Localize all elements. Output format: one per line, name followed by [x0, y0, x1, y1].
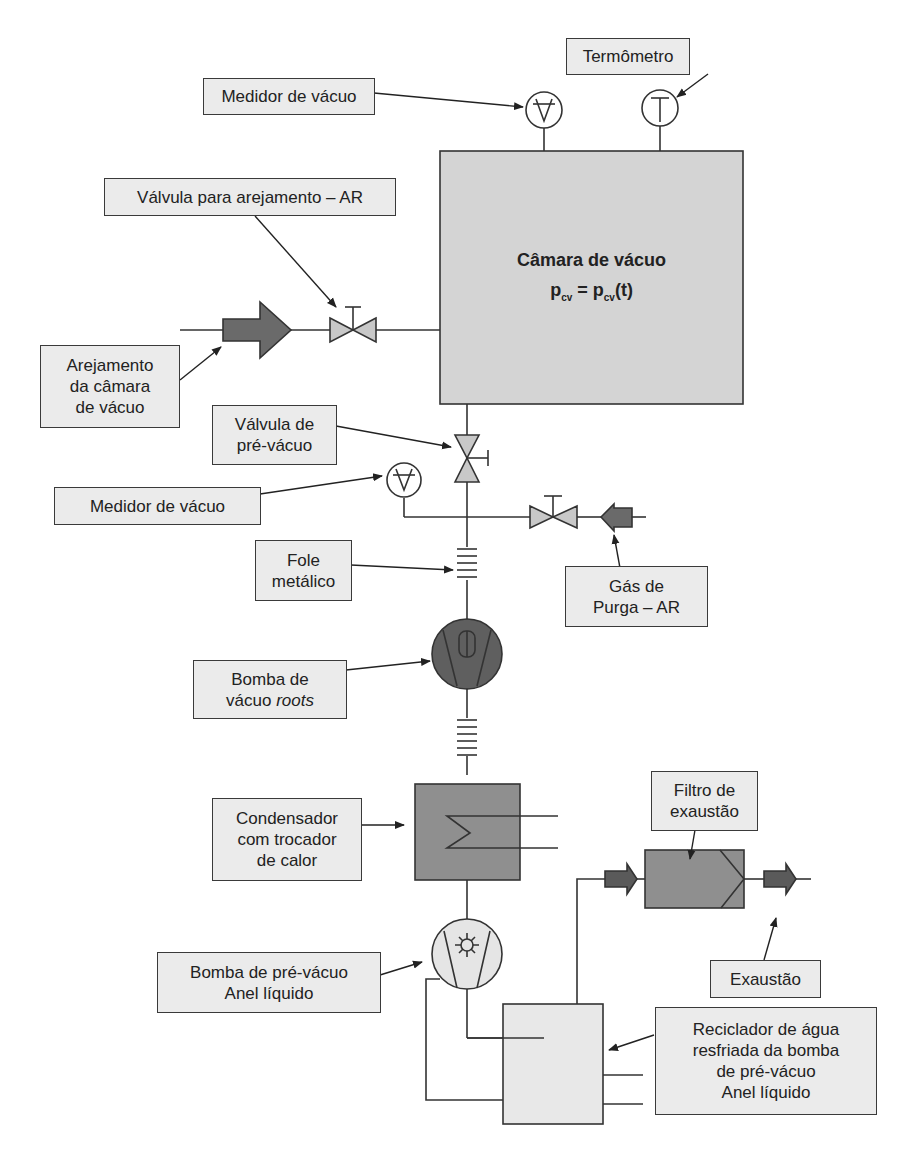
- vent-valve-icon: [330, 307, 376, 342]
- pre-vacuum-valve-icon: [455, 435, 488, 482]
- label-thermometer: Termômetro: [566, 38, 690, 75]
- vacuum-gauge-top-icon: [526, 92, 562, 128]
- chamber-title: Câmara de vácuo: [440, 245, 743, 275]
- exhaust-arrow-out-icon: [764, 864, 796, 894]
- label-vacuum-gauge-mid: Medidor de vácuo: [54, 487, 261, 525]
- chamber-title-block: Câmara de vácuo pcv = pcv(t): [440, 245, 743, 313]
- label-vent-valve: Válvula para arejamento – AR: [104, 178, 396, 216]
- label-liquid-ring-pump: Bomba de pré-vácuo Anel líquido: [157, 952, 381, 1013]
- label-vacuum-gauge-top: Medidor de vácuo: [203, 78, 375, 115]
- label-water-recycler: Reciclador de água resfriada da bomba de…: [655, 1007, 877, 1115]
- purge-inlet-arrow-icon: [601, 504, 646, 531]
- exhaust-arrow-in-icon: [605, 864, 637, 894]
- label-metal-bellows: Fole metálico: [255, 540, 352, 601]
- purge-valve-icon: [530, 496, 601, 528]
- vent-inlet-arrow-icon: [223, 302, 291, 358]
- metal-bellows-lower-icon: [457, 718, 477, 756]
- thermometer-icon: [642, 90, 678, 126]
- liquid-ring-pump-icon: [432, 919, 502, 989]
- roots-line-2: vácuo roots: [226, 690, 314, 711]
- condenser-icon: [415, 784, 558, 880]
- label-roots-pump: Bomba de vácuo roots: [193, 660, 347, 719]
- label-condenser: Condensador com trocador de calor: [212, 798, 362, 881]
- roots-pump-icon: [432, 619, 502, 689]
- water-recycler: [503, 1004, 603, 1124]
- metal-bellows-upper-icon: [457, 547, 477, 580]
- vacuum-gauge-mid-icon: [387, 463, 421, 497]
- label-purge-gas: Gás de Purga – AR: [565, 566, 708, 627]
- label-pre-vacuum-valve: Válvula de pré-vácuo: [212, 405, 337, 465]
- label-exhaust: Exaustão: [710, 960, 821, 998]
- label-exhaust-filter: Filtro de exaustão: [651, 771, 758, 831]
- chamber-formula: pcv = pcv(t): [440, 275, 743, 313]
- label-chamber-venting: Arejamento da câmara de vácuo: [40, 345, 180, 428]
- roots-line-1: Bomba de: [231, 669, 309, 690]
- exhaust-filter-icon: [645, 850, 744, 908]
